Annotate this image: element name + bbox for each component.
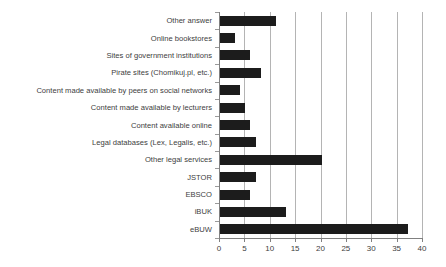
category-label: Pirate sites (Chomikuj.pl, etc.) [0,68,212,77]
bar [220,224,408,234]
bar [220,50,250,60]
category-label: Online bookstores [0,34,212,43]
gridline-10 [270,12,271,238]
x-axis-tick-label: 0 [217,244,221,254]
bar [220,155,322,165]
bar [220,33,235,43]
bar [220,85,240,95]
category-label: Legal databases (Lex, Legalis, etc.) [0,138,212,147]
x-axis-tick-label: 30 [367,244,376,254]
x-axis-tick [219,238,220,242]
x-axis-tick-label: 20 [316,244,325,254]
gridline-20 [321,12,322,238]
gridline-25 [346,12,347,238]
x-axis-tick-label: 25 [341,244,350,254]
x-axis-tick [321,238,322,242]
x-axis-tick [422,238,423,242]
category-label: JSTOR [0,173,212,182]
gridline-30 [371,12,372,238]
x-axis-tick-label: 15 [291,244,300,254]
x-axis-tick [371,238,372,242]
gridline-40 [422,12,423,238]
x-axis-tick-label: 35 [392,244,401,254]
category-label: Other answer [0,16,212,25]
x-axis-tick [295,238,296,242]
x-axis-tick [270,238,271,242]
x-axis-tick-label: 40 [418,244,427,254]
bar [220,120,250,130]
x-axis-tick-label: 5 [242,244,246,254]
x-axis-tick-label: 10 [265,244,274,254]
category-label: EBSCO [0,190,212,199]
x-axis-tick [244,238,245,242]
category-label: Content available online [0,121,212,130]
category-label: iBUK [0,207,212,216]
y-axis-category-labels: Other answerOnline bookstoresSites of go… [0,12,216,238]
bar [220,103,245,113]
bar-chart: Other answerOnline bookstoresSites of go… [0,0,446,267]
x-axis-tick [397,238,398,242]
bar [220,137,256,147]
bar [220,207,286,217]
bar [220,16,276,26]
gridline-15 [295,12,296,238]
bar [220,68,261,78]
category-label: Other legal services [0,155,212,164]
x-axis-tick-marks [219,238,422,243]
plot-area [219,12,422,238]
category-label: eBUW [0,225,212,234]
category-label: Content made available by peers on socia… [0,86,212,95]
bar [220,190,250,200]
category-label: Content made available by lecturers [0,103,212,112]
gridline-35 [397,12,398,238]
x-axis-tick-labels: 0510152025303540 [219,244,422,258]
category-label: Sites of government institutions [0,51,212,60]
x-axis-tick [346,238,347,242]
bar [220,172,256,182]
